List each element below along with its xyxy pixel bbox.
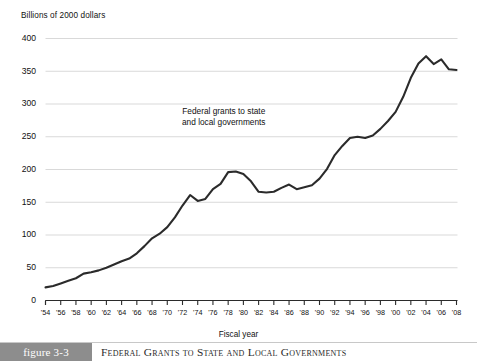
x-axis-tick-label: '06 [437,308,446,317]
x-axis-tick-label: '98 [376,308,385,317]
y-axis-tick-label: 150 [8,197,36,207]
x-axis-tick-label: '86 [284,308,293,317]
x-axis-tick-label: '62 [102,308,111,317]
figure-number-badge: figure 3-3 [0,343,92,361]
y-axis-tick-label: 50 [8,262,36,272]
y-axis-tick-label: 350 [8,66,36,76]
x-axis-tick-label: '56 [56,308,65,317]
x-axis-tick-label: '88 [300,308,309,317]
y-axis-tick-label: 0 [8,295,36,305]
x-axis-tick-label: '72 [178,308,187,317]
series-annotation-line-2: and local governments [182,117,265,128]
x-axis-tick-label: '94 [345,308,354,317]
chart-plot-area [0,0,477,320]
x-axis-tick-label: '82 [254,308,263,317]
x-axis-tick-label: '08 [452,308,461,317]
figure-federal-grants: Billions of 2000 dollars 050100150200250… [0,0,477,361]
x-axis-tick-label: '58 [71,308,80,317]
x-axis-tick-label: '02 [406,308,415,317]
x-axis-tick-label: '66 [132,308,141,317]
figure-caption-title: Federal Grants to State and Local Govern… [92,343,477,361]
y-axis-tick-label: 300 [8,98,36,108]
series-annotation-line-1: Federal grants to state [182,106,265,117]
x-axis-tick-label: '78 [223,308,232,317]
line-chart-svg [0,0,477,320]
x-axis-title: Fiscal year [0,330,477,339]
x-axis-tick-label: '84 [269,308,278,317]
x-axis-tick-label: '68 [147,308,156,317]
x-axis-tick-label: '04 [421,308,430,317]
x-axis-tick-label: '92 [330,308,339,317]
x-axis-tick-label: '64 [117,308,126,317]
figure-caption: figure 3-3 Federal Grants to State and L… [0,343,477,361]
x-axis-tick-label: '70 [163,308,172,317]
x-axis-tick-label: '76 [208,308,217,317]
y-axis-tick-label: 100 [8,229,36,239]
series-annotation: Federal grants to state and local govern… [182,106,265,129]
x-axis-tick-label: '60 [86,308,95,317]
x-axis-tick-label: '90 [315,308,324,317]
x-axis-tick-label: '00 [391,308,400,317]
y-axis-tick-label: 250 [8,131,36,141]
x-axis-tick-label: '80 [239,308,248,317]
x-axis-tick-label: '74 [193,308,202,317]
y-axis-tick-label: 200 [8,164,36,174]
x-axis-tick-label: '96 [360,308,369,317]
x-axis-tick-label: '54 [41,308,50,317]
data-series-line-0 [46,56,457,287]
y-axis-tick-label: 400 [8,33,36,43]
